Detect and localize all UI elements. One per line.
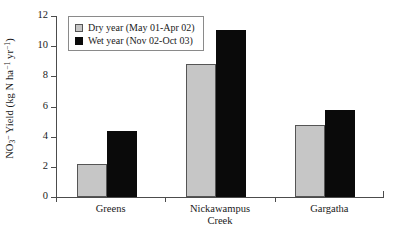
x-tick-1 [165, 197, 166, 202]
y-tick-8 [51, 76, 56, 77]
y-tick-10 [51, 46, 56, 47]
legend-item-wet-year: Wet year (Nov 02-Oct 03) [75, 34, 197, 47]
bar-chart-figure: NO3– Yield (kg N ha−1 yr−1) 024681012 Gr… [0, 0, 401, 235]
y-tick-2 [51, 167, 56, 168]
legend-swatch-wet-year-icon [75, 37, 83, 45]
category-label-line: Nickawampus [160, 203, 280, 215]
y-tick-12 [51, 16, 56, 17]
bar-greens-dry [77, 164, 107, 197]
category-label-line: Greens [51, 203, 171, 215]
bar-greens-wet [107, 131, 137, 197]
x-tick-2 [275, 197, 276, 202]
y-tick-label-6: 6 [24, 101, 48, 111]
y-axis-title: NO3– Yield (kg N ha−1 yr−1) [0, 0, 20, 197]
bar-gargatha-dry [295, 125, 325, 197]
y-tick-label-8: 8 [24, 70, 48, 80]
y-tick-label-12: 12 [24, 10, 48, 20]
y-tick-label-0: 0 [24, 191, 48, 201]
bar-gargatha-wet [325, 110, 355, 197]
bar-nickawampus-creek-dry [186, 64, 216, 197]
bar-nickawampus-creek-wet [216, 30, 246, 197]
chart-legend: Dry year (May 01-Apr 02) Wet year (Nov 0… [68, 16, 204, 51]
legend-swatch-dry-year-icon [75, 24, 83, 32]
y-tick-label-4: 4 [24, 131, 48, 141]
y-tick-4 [51, 137, 56, 138]
x-axis-right-cap [383, 191, 384, 198]
category-label-line: Creek [160, 215, 280, 227]
legend-item-dry-year: Dry year (May 01-Apr 02) [75, 21, 197, 34]
category-label-gargatha: Gargatha [269, 203, 389, 215]
legend-label-wet-year: Wet year (Nov 02-Oct 03) [88, 35, 193, 46]
y-tick-label-10: 10 [24, 40, 48, 50]
y-axis-title-text: NO3– Yield (kg N ha−1 yr−1) [3, 38, 17, 159]
y-tick-label-2: 2 [24, 161, 48, 171]
y-axis-line [56, 16, 57, 198]
category-label-greens: Greens [51, 203, 171, 215]
x-axis-line [56, 197, 384, 198]
legend-label-dry-year: Dry year (May 01-Apr 02) [88, 22, 195, 33]
category-label-line: Gargatha [269, 203, 389, 215]
category-label-nickawampus-creek: NickawampusCreek [160, 203, 280, 227]
y-tick-6 [51, 107, 56, 108]
x-tick-0 [56, 197, 57, 202]
